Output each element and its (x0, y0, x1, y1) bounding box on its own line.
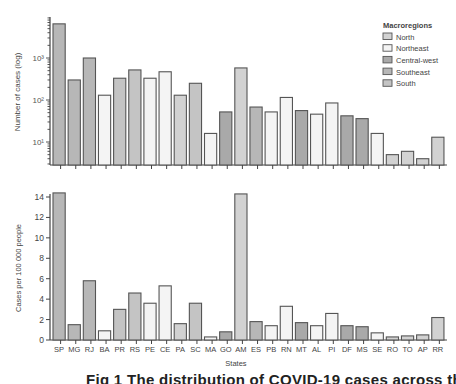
bar-rj (83, 58, 95, 165)
y-tick-label: 10 (35, 233, 45, 243)
bar-sc (189, 303, 201, 340)
legend-label-northeast: Northeast (396, 44, 429, 53)
bar-rn (280, 97, 292, 165)
bar-pe (144, 78, 156, 165)
y-tick-label: 8 (39, 253, 44, 263)
y-tick-label: 2 (39, 315, 44, 325)
bar-pb (265, 326, 277, 340)
figure-caption: Fig 1 The distribution of COVID-19 cases… (86, 371, 456, 384)
y-tick-label: 12 (35, 212, 45, 222)
bar-ro (386, 155, 398, 165)
x-tick-label: MG (68, 345, 80, 354)
bar-rr (432, 318, 444, 340)
bar-pi (326, 313, 338, 340)
x-tick-label: SC (190, 345, 201, 354)
x-tick-label: SE (372, 345, 382, 354)
bar-go (220, 332, 232, 340)
bar-al (311, 326, 323, 340)
bar-rr (432, 137, 444, 165)
bar-pr (114, 309, 126, 340)
x-tick-label: DF (342, 345, 352, 354)
bar-sp (53, 24, 65, 165)
bar-ba (98, 95, 110, 165)
bar-pi (326, 103, 338, 165)
x-tick-label: BA (100, 345, 110, 354)
x-axis-label: States (225, 359, 247, 368)
x-tick-label: PB (266, 345, 276, 354)
x-tick-label: RJ (85, 345, 94, 354)
bar-sc (189, 83, 201, 165)
bar-df (341, 116, 353, 165)
bar-ap (417, 335, 429, 340)
y-tick-label: 4 (39, 294, 44, 304)
y-tick-label: 0 (39, 335, 44, 345)
log-cases-chart: 10¹10²10³Number of cases (log) (13, 17, 447, 169)
bar-go (220, 112, 232, 165)
x-tick-label: AL (312, 345, 321, 354)
bar-mg (68, 80, 80, 165)
x-tick-label: TO (402, 345, 412, 354)
bar-ms (356, 327, 368, 340)
bar-mt (295, 111, 307, 165)
y-tick-label: 10² (32, 96, 44, 105)
bar-rs (129, 70, 141, 165)
x-tick-label: PR (114, 345, 125, 354)
bar-pb (265, 112, 277, 165)
x-tick-label: SP (54, 345, 64, 354)
x-tick-label: PI (328, 345, 335, 354)
bar-mg (68, 325, 80, 340)
x-tick-label: PE (145, 345, 155, 354)
bar-to (401, 151, 413, 165)
bar-rj (83, 281, 95, 340)
x-tick-label: RS (130, 345, 140, 354)
legend-swatch-southeast (383, 68, 392, 75)
bar-es (250, 107, 262, 165)
x-tick-label: ES (251, 345, 261, 354)
y-tick-label: 10¹ (32, 138, 44, 147)
x-tick-label: RN (281, 345, 292, 354)
legend-swatch-northeast (383, 45, 392, 52)
bar-pe (144, 303, 156, 340)
y-axis-label: Number of cases (log) (13, 52, 22, 131)
bar-rn (280, 306, 292, 340)
bar-ce (159, 72, 171, 165)
bar-ap (417, 159, 429, 165)
bar-ba (98, 331, 110, 340)
x-tick-label: GO (220, 345, 232, 354)
bar-sp (53, 193, 65, 340)
legend: MacroregionsNorthNortheastCentral-westSo… (383, 21, 439, 88)
bar-pa (174, 95, 186, 165)
y-axis-label: Cases per 100 000 people (14, 224, 23, 312)
bar-pa (174, 324, 186, 340)
bar-se (371, 333, 383, 340)
legend-swatch-north (383, 33, 392, 40)
bar-pr (114, 78, 126, 165)
bar-ma (205, 337, 217, 340)
bar-ma (205, 133, 217, 165)
legend-swatch-central-west (383, 56, 392, 63)
bar-ce (159, 286, 171, 340)
x-tick-label: CE (160, 345, 170, 354)
bar-am (235, 194, 247, 340)
bar-mt (295, 323, 307, 340)
x-tick-label: RR (432, 345, 443, 354)
legend-swatch-south (383, 80, 392, 87)
x-tick-label: AP (418, 345, 428, 354)
x-tick-label: AM (235, 345, 246, 354)
legend-label-south: South (396, 79, 416, 88)
bar-rs (129, 293, 141, 340)
bar-df (341, 326, 353, 340)
legend-label-southeast: Southeast (396, 68, 431, 77)
x-tick-label: MT (296, 345, 307, 354)
x-tick-label: MS (356, 345, 367, 354)
bar-al (311, 114, 323, 165)
legend-title: Macroregions (383, 21, 432, 30)
bar-ro (386, 337, 398, 340)
bar-se (371, 133, 383, 165)
y-tick-label: 6 (39, 274, 44, 284)
per-capita-chart: 02468101214Cases per 100 000 peopleSPMGR… (14, 192, 447, 368)
bar-am (235, 68, 247, 165)
x-tick-label: RO (387, 345, 398, 354)
bar-es (250, 322, 262, 340)
y-tick-label: 10³ (32, 54, 44, 63)
